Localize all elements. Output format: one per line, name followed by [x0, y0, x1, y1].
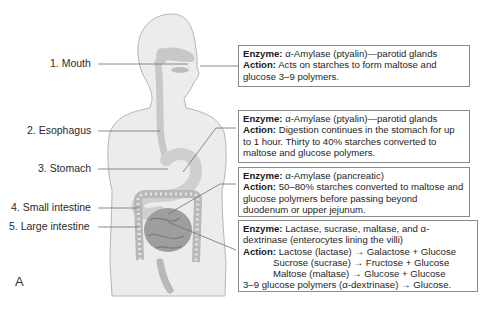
- enzyme-label: Enzyme:: [243, 223, 282, 234]
- reaction-dextrinase: 3–9 glucose polymers (α-dextrinase) → Gl…: [243, 279, 473, 290]
- enzyme-label: Enzyme:: [243, 48, 282, 59]
- enzyme-box-brush-border: Enzyme: Lactase, sucrase, maltase, and α…: [238, 220, 478, 292]
- enzyme-box-stomach: Enzyme: α-Amylase (ptyalin)—parotid glan…: [238, 110, 470, 163]
- tongue: [171, 67, 189, 73]
- label-large-intestine: 5. Large intestine: [9, 220, 90, 232]
- reaction-maltose: Maltose (maltase) → Glucose + Glucose: [243, 268, 473, 279]
- reaction-sucrose: Sucrose (sucrase) → Fructose + Glucose: [243, 257, 473, 268]
- label-stomach: 3. Stomach: [38, 162, 91, 174]
- enzyme-text: α-Amylase (ptyalin)—parotid glands: [285, 48, 437, 59]
- label-mouth: 1. Mouth: [50, 57, 91, 69]
- panel-label: A: [15, 274, 24, 289]
- enzyme-box-mouth: Enzyme: α-Amylase (ptyalin)—parotid glan…: [238, 45, 470, 87]
- label-small-intestine: 4. Small intestine: [11, 201, 91, 213]
- reaction-lactose: Lactose (lactase) → Galactose + Glucose: [279, 246, 456, 257]
- enzyme-text: α-Amylase (pancreatic): [285, 170, 384, 181]
- action-label: Action:: [243, 181, 276, 192]
- enzyme-box-pancreatic: Enzyme: α-Amylase (pancreatic) Action: 5…: [238, 167, 470, 217]
- small-intestine: [144, 208, 192, 252]
- enzyme-text: α-Amylase (ptyalin)—parotid glands: [285, 113, 437, 124]
- action-label: Action:: [243, 59, 276, 70]
- action-label: Action:: [243, 246, 276, 257]
- label-esophagus: 2. Esophagus: [27, 124, 91, 136]
- enzyme-label: Enzyme:: [243, 170, 282, 181]
- action-label: Action:: [243, 124, 276, 135]
- enzyme-label: Enzyme:: [243, 113, 282, 124]
- action-text: 50–80% starches converted to maltose and…: [243, 181, 463, 215]
